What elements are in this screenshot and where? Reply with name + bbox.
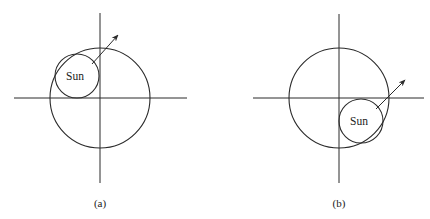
sun-orbit-diagram: Sun (a) Sun (b) [0,0,430,219]
panel-a: Sun (a) [14,13,187,210]
sun-label: Sun [66,70,84,82]
velocity-arrow-icon [376,80,405,109]
sun-label: Sun [350,115,368,127]
panel-b: Sun (b) [253,14,424,210]
panel-caption: (b) [333,197,346,210]
panel-caption: (a) [94,197,107,210]
